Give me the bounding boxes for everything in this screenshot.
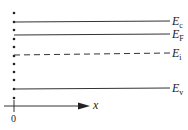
label-ei: Ei — [172, 47, 182, 62]
origin-label: 0 — [11, 114, 16, 124]
valence-band-line — [14, 88, 170, 89]
label-ef: EF — [172, 28, 184, 43]
label-ev: Ev — [172, 82, 183, 97]
fermi-level-line — [14, 34, 170, 35]
x-axis-label: x — [93, 99, 98, 111]
conduction-band-line — [14, 21, 170, 22]
x-axis-arrow-icon — [78, 103, 90, 110]
surface-dots — [13, 12, 16, 100]
intrinsic-level-line — [14, 53, 170, 55]
